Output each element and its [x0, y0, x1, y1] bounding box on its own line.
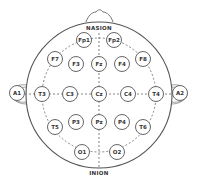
electrode-t4: T4: [149, 87, 164, 102]
nasion-label: NASION: [86, 25, 112, 31]
electrode-label: Cz: [95, 91, 102, 97]
electrode-f7: F7: [48, 52, 63, 67]
electrode-label: O2: [113, 149, 122, 155]
electrode-pz: Pz: [92, 115, 107, 130]
electrode-p3: P3: [69, 115, 84, 130]
electrode-label: F4: [118, 61, 126, 67]
electrode-cz: Cz: [92, 87, 107, 102]
electrode-label: Fz: [96, 61, 103, 67]
electrode-label: Fp2: [108, 37, 120, 44]
electrode-label: P4: [118, 119, 126, 125]
electrode-label: O1: [78, 149, 87, 155]
electrode-p4: P4: [115, 115, 130, 130]
electrode-o1: O1: [75, 145, 90, 160]
electrode-f3: F3: [69, 57, 84, 72]
electrode-a2: A2: [173, 86, 188, 101]
electrode-c4: C4: [121, 87, 136, 102]
electrode-a1: A1: [10, 86, 25, 101]
electrode-label: T6: [139, 124, 147, 130]
electrode-label: A2: [176, 90, 184, 96]
electrode-fp2: Fp2: [107, 33, 122, 48]
electrode-label: T3: [38, 91, 46, 97]
electrode-fp1: Fp1: [77, 33, 92, 48]
electrode-label: Fp1: [78, 37, 90, 44]
electrode-label: T5: [51, 124, 59, 130]
electrode-label: Pz: [95, 119, 102, 125]
nose-shape: [86, 10, 113, 22]
eeg-electrode-diagram: NASION INION Fp1Fp2F7F3FzF4F8A1T3C3CzC4T…: [0, 0, 197, 180]
electrode-label: F8: [139, 56, 147, 62]
electrode-f8: F8: [136, 52, 151, 67]
electrode-f4: F4: [115, 57, 130, 72]
electrode-label: T4: [152, 91, 160, 97]
electrode-label: P3: [72, 119, 80, 125]
inion-label: INION: [89, 170, 109, 176]
electrode-label: A1: [13, 90, 21, 96]
electrode-label: F3: [72, 61, 80, 67]
electrode-label: C3: [66, 91, 74, 97]
electrode-label: C4: [124, 91, 132, 97]
electrode-t5: T5: [48, 120, 63, 135]
electrode-t3: T3: [35, 87, 50, 102]
electrode-label: F7: [51, 56, 59, 62]
electrode-o2: O2: [110, 145, 125, 160]
electrode-fz: Fz: [92, 57, 107, 72]
electrode-c3: C3: [63, 87, 78, 102]
electrode-t6: T6: [136, 120, 151, 135]
